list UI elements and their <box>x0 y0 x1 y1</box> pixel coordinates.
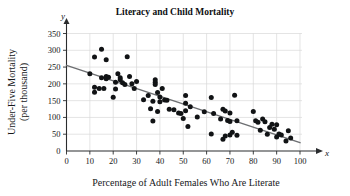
data-point <box>92 90 97 95</box>
literacy-child-mortality-scatter-plot: 0102030405060708090100 05010015020025030… <box>0 0 350 196</box>
x-tick-label: 80 <box>249 156 258 166</box>
data-point <box>185 124 190 129</box>
x-tick-label: 60 <box>202 156 211 166</box>
data-point <box>155 109 160 114</box>
data-point <box>223 133 228 138</box>
x-tick-label: 0 <box>64 156 68 166</box>
data-point <box>211 111 216 116</box>
chart-title: Literacy and Child Mortality <box>116 7 235 17</box>
data-point <box>232 93 237 98</box>
data-point <box>283 138 288 143</box>
data-point <box>157 99 162 104</box>
data-point <box>183 101 188 106</box>
data-point <box>132 86 137 91</box>
data-point <box>155 90 160 95</box>
data-point <box>122 82 127 87</box>
data-point <box>272 127 277 132</box>
data-point <box>288 135 293 140</box>
data-point <box>141 97 146 102</box>
data-point <box>129 81 134 86</box>
data-point <box>153 77 158 82</box>
x-axis-variable-label: x <box>324 148 329 158</box>
data-point <box>209 131 214 136</box>
data-point <box>274 122 279 127</box>
data-point <box>234 133 239 138</box>
data-point <box>106 75 111 80</box>
data-point <box>223 109 228 114</box>
x-tick-label: 20 <box>109 156 118 166</box>
y-tick-label: 50 <box>52 129 61 139</box>
data-point <box>195 115 200 120</box>
x-tick-label: 10 <box>86 156 95 166</box>
x-tick-label: 100 <box>294 156 307 166</box>
data-point <box>230 130 235 135</box>
y-axis-variable-label: y <box>60 11 65 21</box>
y-tick-label: 100 <box>48 112 61 122</box>
data-point <box>183 108 188 113</box>
data-point <box>269 122 274 127</box>
data-point <box>178 111 183 116</box>
data-point <box>183 93 188 98</box>
axes <box>64 18 324 154</box>
data-point <box>227 111 232 116</box>
data-point <box>113 80 118 85</box>
y-axis-title-line2: (per thousand) <box>18 63 30 121</box>
data-point <box>101 86 106 91</box>
y-axis-ticks: 050100150200250300350 <box>48 29 67 157</box>
data-point <box>99 47 104 52</box>
data-point <box>251 109 256 114</box>
data-point <box>104 57 109 62</box>
data-points <box>87 47 293 144</box>
y-tick-label: 250 <box>48 62 61 72</box>
x-tick-label: 70 <box>226 156 235 166</box>
data-point <box>258 128 263 133</box>
x-axis-arrow-icon <box>316 148 323 154</box>
x-tick-label: 30 <box>132 156 141 166</box>
data-point <box>99 75 104 80</box>
data-point <box>171 107 176 112</box>
data-point <box>146 93 151 98</box>
y-tick-label: 300 <box>48 45 61 55</box>
data-point <box>255 120 260 125</box>
data-point <box>209 95 214 100</box>
data-point <box>150 99 155 104</box>
y-axis-title-line1: Under-Five Mortality <box>6 49 17 135</box>
x-tick-label: 90 <box>272 156 281 166</box>
data-point <box>148 106 153 111</box>
data-point <box>92 85 97 90</box>
data-point <box>134 79 139 84</box>
data-point <box>188 104 193 109</box>
data-point <box>97 86 102 91</box>
data-point <box>234 118 239 123</box>
data-point <box>218 117 223 122</box>
data-point <box>127 74 132 79</box>
chart-figure: 0102030405060708090100 05010015020025030… <box>0 0 350 196</box>
data-point <box>160 86 165 91</box>
data-point <box>227 119 232 124</box>
data-point <box>167 107 172 112</box>
data-point <box>111 95 116 100</box>
y-tick-label: 150 <box>48 96 61 106</box>
x-tick-label: 40 <box>156 156 165 166</box>
x-axis-ticks: 0102030405060708090100 <box>64 151 306 166</box>
data-point <box>262 119 267 124</box>
y-tick-label: 200 <box>48 79 61 89</box>
data-point <box>87 71 92 76</box>
data-point <box>181 116 186 121</box>
data-point <box>279 132 284 137</box>
y-tick-label: 0 <box>56 146 60 156</box>
data-point <box>125 54 130 59</box>
y-tick-label: 350 <box>48 29 61 39</box>
data-point <box>92 55 97 60</box>
data-point <box>265 132 270 137</box>
data-point <box>202 109 207 114</box>
data-point <box>286 128 291 133</box>
x-axis-title: Percentage of Adult Females Who Are Lite… <box>92 177 280 188</box>
x-tick-label: 50 <box>179 156 188 166</box>
data-point <box>153 82 158 87</box>
data-point <box>150 119 155 124</box>
data-point <box>113 86 118 91</box>
data-point <box>164 98 169 103</box>
data-point <box>157 94 162 99</box>
